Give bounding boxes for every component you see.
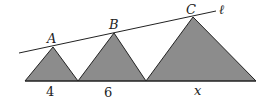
label-b: B <box>108 17 119 32</box>
base-label-x: x <box>194 83 202 97</box>
label-line-l: ℓ <box>219 2 225 17</box>
base-label-4: 4 <box>46 84 54 97</box>
label-a: A <box>46 31 56 46</box>
similar-triangles-diagram: A B C ℓ 4 6 x <box>0 0 273 97</box>
base-label-6: 6 <box>104 85 112 97</box>
label-c: C <box>186 2 196 17</box>
triangle-b <box>78 33 146 81</box>
triangle-a <box>25 47 78 81</box>
triangle-c <box>146 17 256 81</box>
